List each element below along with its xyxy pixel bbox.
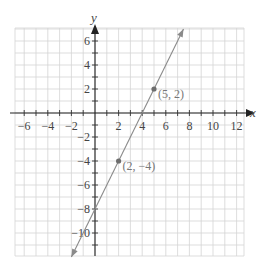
svg-text:−2: −2: [77, 130, 90, 144]
y-axis-label: y: [89, 10, 97, 25]
svg-text:−6: −6: [18, 119, 31, 133]
data-point: [116, 158, 121, 163]
point-label: (2, −4): [123, 159, 156, 173]
svg-text:4: 4: [139, 119, 145, 133]
svg-text:6: 6: [84, 34, 90, 48]
svg-text:6: 6: [163, 119, 169, 133]
svg-text:−4: −4: [41, 119, 54, 133]
svg-text:8: 8: [186, 119, 192, 133]
svg-text:10: 10: [207, 119, 219, 133]
svg-text:−4: −4: [77, 154, 90, 168]
svg-text:−2: −2: [65, 119, 78, 133]
svg-text:2: 2: [84, 82, 90, 96]
x-axis-label: x: [249, 105, 256, 120]
point-label: (5, 2): [158, 87, 184, 101]
grid: [15, 28, 244, 256]
svg-text:−6: −6: [77, 178, 90, 192]
svg-text:2: 2: [116, 119, 122, 133]
coordinate-plane: −6−4−224681012642−2−4−6−8−10 (5, 2)(2, −…: [0, 0, 266, 270]
data-point: [151, 86, 156, 91]
svg-text:12: 12: [231, 119, 243, 133]
svg-text:4: 4: [84, 58, 90, 72]
plotted-points: (5, 2)(2, −4): [116, 86, 184, 173]
svg-text:−8: −8: [77, 202, 90, 216]
